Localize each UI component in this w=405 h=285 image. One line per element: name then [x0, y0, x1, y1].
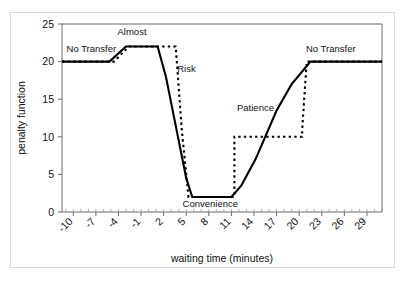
y-axis-ticks [58, 24, 62, 212]
x-tick-label: 26 [329, 215, 346, 232]
x-tick-label: 11 [217, 215, 233, 231]
series-line-dashed [62, 47, 382, 197]
y-axis-tick-labels: 0510152025 [42, 18, 54, 218]
series-line-solid [62, 47, 382, 197]
annotation-no-transfer-right: No Transfer [306, 43, 356, 54]
data-series [62, 47, 382, 197]
y-tick-label: 0 [48, 206, 54, 218]
x-tick-label: 8 [198, 215, 211, 228]
chart-annotations: No TransferAlmostRiskConveniencePatience… [67, 26, 356, 209]
x-tick-label: -10 [55, 215, 74, 234]
x-tick-label: 14 [239, 215, 256, 232]
x-tick-label: -1 [127, 215, 142, 230]
x-axis-title: waiting time (minutes) [170, 252, 273, 264]
x-tick-label: 29 [352, 215, 369, 232]
annotation-convenience: Convenience [183, 198, 238, 209]
annotation-no-transfer-left: No Transfer [67, 43, 117, 54]
x-tick-label: -4 [105, 215, 120, 230]
annotation-patience: Patience [237, 102, 274, 113]
annotation-risk: Risk [177, 63, 196, 74]
x-axis-tick-labels: -10-7-4-125811141720232629 [55, 215, 368, 234]
x-tick-label: 23 [306, 215, 323, 232]
y-axis-title: penalty function [15, 81, 27, 155]
x-tick-label: -7 [82, 215, 97, 230]
x-tick-label: 20 [284, 215, 301, 232]
penalty-function-chart: 0510152025 -10-7-4-125811141720232629 No… [0, 0, 405, 285]
y-tick-label: 25 [42, 18, 54, 30]
x-tick-label: 2 [152, 215, 165, 228]
y-tick-label: 15 [42, 93, 54, 105]
x-axis-ticks [73, 212, 367, 216]
x-tick-label: 5 [175, 215, 188, 228]
chart-figure: 0510152025 -10-7-4-125811141720232629 No… [0, 0, 405, 285]
y-tick-label: 20 [42, 55, 54, 67]
y-tick-label: 5 [48, 168, 54, 180]
y-tick-label: 10 [42, 131, 54, 143]
x-tick-label: 17 [261, 215, 278, 232]
annotation-almost: Almost [118, 26, 147, 37]
